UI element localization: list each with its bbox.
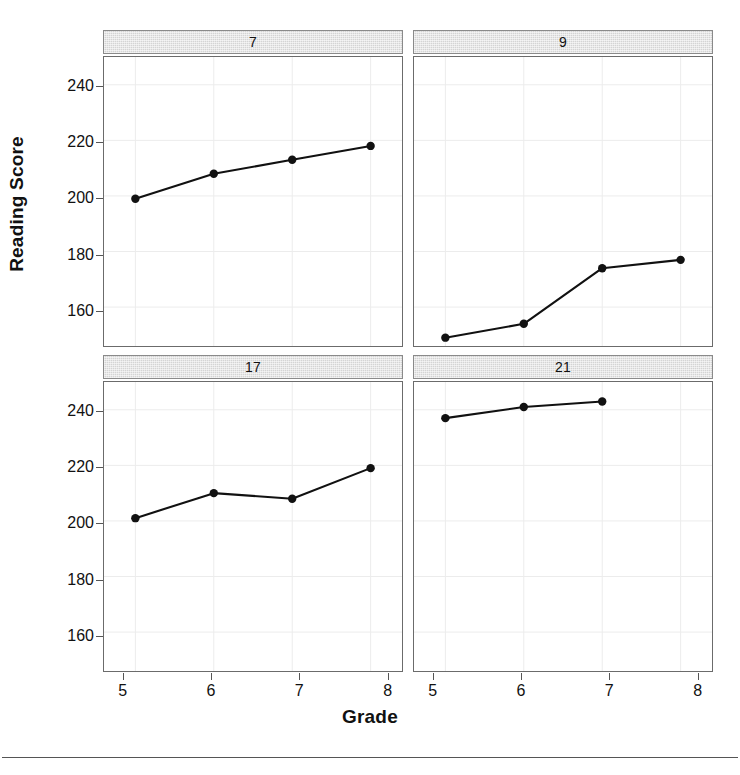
series-points-9 (441, 256, 685, 342)
y-tick-mark-240-bottom (96, 411, 103, 412)
gridlines-21 (414, 382, 712, 671)
x-tick-label-8-right: 8 (683, 682, 713, 700)
panel-plot-area-7 (103, 56, 403, 347)
y-tick-mark-160-top (96, 311, 103, 312)
panel-strip-9: 9 (413, 30, 713, 54)
panel-plot-area-17 (103, 381, 403, 672)
x-tick-label-5-right: 5 (418, 682, 448, 700)
x-tick-label-5-left: 5 (108, 682, 138, 700)
y-tick-mark-160-bottom (96, 636, 103, 637)
data-point (441, 333, 449, 341)
y-tick-mark-180-bottom (96, 580, 103, 581)
series-line-7 (135, 146, 370, 199)
x-tick-mark-6-left (211, 673, 212, 680)
y-tick-label-220-bottom: 220 (52, 458, 94, 476)
footer-divider (2, 757, 738, 758)
panel-strip-label: 9 (559, 34, 567, 50)
data-point (131, 514, 139, 522)
y-tick-label-160-top: 160 (52, 302, 94, 320)
gridlines-17 (104, 382, 402, 671)
data-point (520, 320, 528, 328)
panel-9-svg (414, 57, 712, 346)
x-tick-label-7-right: 7 (594, 682, 624, 700)
y-axis-title: Reading Score (6, 94, 40, 314)
data-point (598, 397, 606, 405)
y-tick-label-180-bottom: 180 (52, 571, 94, 589)
x-tick-mark-7-right (609, 673, 610, 680)
panel-strip-7: 7 (103, 30, 403, 54)
data-point (131, 195, 139, 203)
y-tick-mark-200-top (96, 198, 103, 199)
x-tick-mark-6-right (521, 673, 522, 680)
panel-21-svg (414, 382, 712, 671)
x-tick-label-6-left: 6 (196, 682, 226, 700)
panel-strip-label: 17 (245, 359, 261, 375)
x-tick-mark-5-right (433, 673, 434, 680)
gridlines-7 (104, 57, 402, 346)
panel-strip-label: 7 (249, 34, 257, 50)
panel-strip-17: 17 (103, 355, 403, 379)
y-tick-label-160-bottom: 160 (52, 627, 94, 645)
data-point (288, 495, 296, 503)
y-tick-mark-220-top (96, 142, 103, 143)
y-tick-mark-180-top (96, 255, 103, 256)
panel-strip-21: 21 (413, 355, 713, 379)
data-point (441, 414, 449, 422)
x-tick-label-7-left: 7 (284, 682, 314, 700)
y-tick-label-200-bottom: 200 (52, 514, 94, 532)
panel-strip-label: 21 (555, 359, 571, 375)
y-tick-label-240-top: 240 (52, 77, 94, 95)
panel-bottom-left: 17 (103, 355, 403, 672)
y-axis-title-area: Reading Score (0, 0, 44, 700)
series-line-9 (445, 260, 680, 338)
panel-7-svg (104, 57, 402, 346)
data-point (366, 142, 374, 150)
y-tick-mark-220-bottom (96, 467, 103, 468)
data-point (598, 264, 606, 272)
y-tick-label-180-top: 180 (52, 246, 94, 264)
data-point (520, 403, 528, 411)
y-tick-label-240-bottom: 240 (52, 402, 94, 420)
data-point (676, 256, 684, 264)
panel-plot-area-21 (413, 381, 713, 672)
data-point (210, 170, 218, 178)
panel-17-svg (104, 382, 402, 671)
gridlines-9 (414, 57, 712, 346)
x-tick-mark-5-left (123, 673, 124, 680)
trellis-chart-figure: Reading Score 7 9 (0, 0, 740, 775)
y-tick-label-220-top: 220 (52, 133, 94, 151)
panel-plot-area-9 (413, 56, 713, 347)
x-axis-title: Grade (0, 706, 740, 728)
y-tick-mark-240-top (96, 86, 103, 87)
data-point (288, 156, 296, 164)
panel-top-left: 7 (103, 30, 403, 347)
series-line-17 (135, 468, 370, 518)
panel-top-right: 9 (413, 30, 713, 347)
y-tick-mark-200-bottom (96, 523, 103, 524)
x-tick-mark-7-left (299, 673, 300, 680)
data-point (210, 489, 218, 497)
x-tick-mark-8-left (388, 673, 389, 680)
data-point (366, 464, 374, 472)
x-tick-mark-8-right (698, 673, 699, 680)
y-tick-label-200-top: 200 (52, 189, 94, 207)
x-tick-label-8-left: 8 (373, 682, 403, 700)
x-tick-label-6-right: 6 (506, 682, 536, 700)
panel-bottom-right: 21 (413, 355, 713, 672)
series-points-17 (131, 464, 375, 522)
